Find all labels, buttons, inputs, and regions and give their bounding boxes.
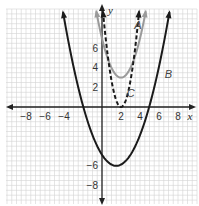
x-tick-label: −6 <box>39 111 51 122</box>
y-axis-down-arrow-icon <box>99 198 105 205</box>
y-axis-up-arrow-icon <box>99 4 105 11</box>
x-tick-label: −4 <box>58 111 70 122</box>
y-tick-label: 2 <box>92 82 98 93</box>
x-tick-label: 4 <box>137 111 143 122</box>
parabola-graph: −8−6−42468−8−6246xyABC <box>0 0 199 206</box>
x-tick-label: 2 <box>118 111 124 122</box>
curve-label-b: B <box>165 68 172 80</box>
x-axis-label: x <box>187 110 193 122</box>
y-tick-label: 4 <box>92 62 98 73</box>
x-tick-label: 8 <box>175 111 181 122</box>
y-tick-label: 6 <box>92 43 98 54</box>
curve-label-c: C <box>127 87 135 99</box>
curve-label-a: A <box>133 19 141 31</box>
x-tick-label: −8 <box>20 111 32 122</box>
y-tick-label: −8 <box>87 180 99 191</box>
y-tick-label: −6 <box>87 160 99 171</box>
y-axis-label: y <box>107 4 113 16</box>
x-tick-label: 6 <box>156 111 162 122</box>
